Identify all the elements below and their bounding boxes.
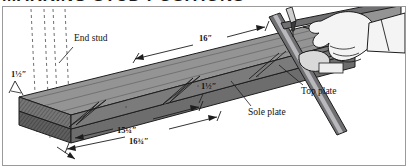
dimension-label-thickness-left: 1½″ [11,70,26,79]
dimension-label-16-inch: 16″ [199,34,212,43]
label-end-stud: End stud [74,34,108,44]
page-headline: MARKING STUD POSITIONS [2,0,245,5]
label-top-plate: Top plate [301,87,336,97]
label-sole-plate: Sole plate [248,108,286,118]
illustration-panel: End stud Top plate Sole plate 1½″ 16″ 1½… [2,6,406,166]
tool-detail-block [319,63,343,73]
page-headline-strip: MARKING STUD POSITIONS [0,0,409,5]
illustration-page: MARKING STUD POSITIONS [0,0,409,168]
dimension-label-16-three-quarter: 16¾″ [129,137,149,146]
dimension-label-thickness-mid: 1½″ [201,82,216,91]
dimension-label-15-quarter: 15¼″ [117,126,137,135]
